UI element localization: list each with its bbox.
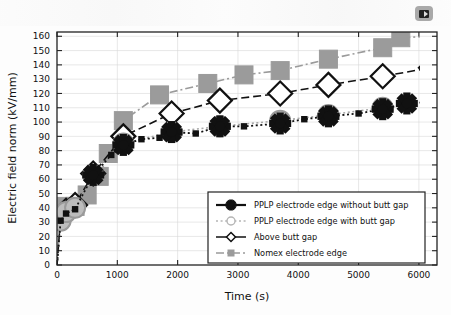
data-point-star <box>82 164 104 186</box>
data-point-star <box>317 105 339 127</box>
x-axis-label: Time (s) <box>224 290 270 303</box>
y-tick-label: 50 <box>39 189 51 199</box>
data-point-square <box>199 74 217 92</box>
y-tick-label: 100 <box>33 117 50 127</box>
legend-label-0: PPLP electrode edge without butt gap <box>254 200 408 210</box>
data-point-square <box>374 39 392 57</box>
y-tick-label: 120 <box>33 89 50 99</box>
y-tick-label: 110 <box>33 103 50 113</box>
data-point-square <box>319 50 337 68</box>
y-tick-label: 30 <box>39 217 51 227</box>
y-axis-label: Electric field norm (kV/mm) <box>6 72 19 223</box>
data-point-star <box>112 134 134 156</box>
data-point-star <box>372 98 394 120</box>
data-point-square <box>151 86 169 104</box>
y-tick-label: 130 <box>33 74 50 84</box>
data-point-square <box>235 66 253 84</box>
x-tick-label: 6000 <box>407 270 430 280</box>
data-point-star <box>396 92 418 114</box>
y-tick-label: 90 <box>39 132 51 142</box>
data-point-star <box>209 115 231 137</box>
y-tick-label: 0 <box>44 260 50 270</box>
y-tick-label: 10 <box>39 246 51 256</box>
y-tick-label: 80 <box>39 146 51 156</box>
x-tick-label: 2000 <box>166 270 189 280</box>
y-tick-label: 140 <box>33 60 50 70</box>
y-tick-label: 60 <box>39 174 51 184</box>
y-tick-label: 150 <box>33 46 50 56</box>
data-point-star <box>161 121 183 143</box>
x-tick-label: 5000 <box>347 270 370 280</box>
x-tick-label: 0 <box>54 270 60 280</box>
x-tick-label: 1000 <box>106 270 129 280</box>
legend[interactable]: PPLP electrode edge without butt gapPPLP… <box>208 192 425 263</box>
legend-label-2: Above butt gap <box>254 232 317 242</box>
y-tick-label: 160 <box>33 31 50 41</box>
legend-label-3: Nomex electrode edge <box>254 248 347 258</box>
data-point-star <box>269 112 291 134</box>
y-tick-label: 40 <box>39 203 51 213</box>
chart-figure: 0102030405060708090100110120130140150160… <box>0 0 451 315</box>
x-tick-label: 4000 <box>287 270 310 280</box>
legend-label-1: PPLP electrode edge with butt gap <box>254 216 395 226</box>
data-point-square <box>271 62 289 80</box>
x-tick-label: 3000 <box>226 270 249 280</box>
y-tick-label: 20 <box>39 232 51 242</box>
y-tick-label: 70 <box>39 160 51 170</box>
legend-item-2[interactable]: Above butt gap <box>216 232 317 242</box>
